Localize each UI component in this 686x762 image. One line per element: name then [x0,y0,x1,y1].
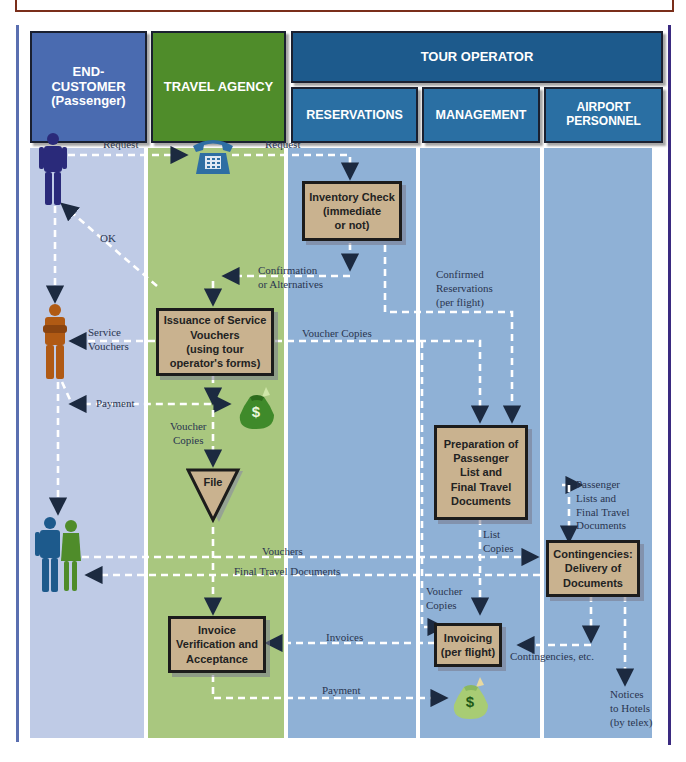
person-arms-crossed-icon [40,303,70,381]
label-voucher-copies-2: Voucher Copies [170,420,206,448]
money-bag-icon: $ [236,385,278,431]
svg-text:$: $ [466,693,475,710]
label-request-2: Request [265,138,300,152]
label-voucher-copies-1: Voucher Copies [302,327,372,341]
label-service-vouchers: Service Vouchers [88,326,129,354]
money-bag-icon: $ [450,675,492,721]
label-ok: OK [100,232,116,246]
process-issuance-of-service-vouchers: Issuance of Service Vouchers (using tour… [156,308,274,376]
telephone-icon [190,136,236,176]
flow-arrows [0,0,686,762]
process-contingencies-delivery: Contingencies: Delivery of Documents [546,540,640,597]
label-payment-2: Payment [322,684,361,698]
label-request-1: Request [103,138,138,152]
label-final-travel-documents: Final Travel Documents [234,565,340,579]
label-vouchers: Vouchers [262,545,303,559]
couple-icon [34,516,84,596]
label-payment-1: Payment [96,397,135,411]
process-invoicing-per-flight: Invoicing (per flight) [434,623,502,667]
arrow-payment-1 [62,382,228,404]
svg-text:$: $ [252,403,261,420]
label-passenger-lists: Passenger Lists and Final Travel Documen… [576,478,629,533]
file-storage-symbol: File [186,468,246,528]
label-confirmation: Confirmation or Alternatives [258,264,323,292]
label-confirmed-reservations: Confirmed Reservations (per flight) [436,268,493,309]
label-invoices: Invoices [326,631,363,645]
label-notices-to-hotels: Notices to Hotels (by telex) [610,688,652,729]
arrow-request-2 [232,155,350,177]
process-invoice-verification: Invoice Verification and Acceptance [168,616,266,673]
person-icon [38,132,68,207]
file-label: File [204,476,223,488]
label-list-copies: List Copies [483,528,514,556]
process-preparation-passenger-list: Preparation of Passenger List and Final … [434,425,528,520]
label-voucher-copies-3: Voucher Copies [426,585,462,613]
label-contingencies-etc: Contingencies, etc. [510,650,594,664]
arrow-voucher-copies-1 [275,341,480,420]
process-inventory-check: Inventory Check (immediate or not) [302,181,402,241]
